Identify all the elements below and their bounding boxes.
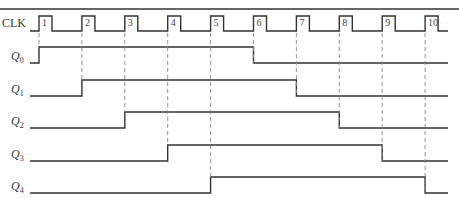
q2-waveform <box>30 112 448 128</box>
q0-waveform <box>30 47 448 63</box>
pulse-number-10: 10 <box>428 17 438 28</box>
pulse-number-7: 7 <box>299 17 304 28</box>
clk-label: CLK <box>2 16 26 31</box>
q3-label: Q3 <box>11 147 24 163</box>
q1-label: Q1 <box>11 82 24 98</box>
q4-waveform <box>30 177 448 193</box>
pulse-number-8: 8 <box>342 17 347 28</box>
pulse-number-5: 5 <box>214 17 219 28</box>
q0-label: Q0 <box>11 49 24 65</box>
q4-label: Q4 <box>11 179 24 195</box>
q1-waveform <box>30 80 448 96</box>
pulse-number-3: 3 <box>128 17 133 28</box>
timing-diagram: CLK 12345678910Q0Q1Q2Q3Q4 <box>0 0 459 198</box>
q2-label: Q2 <box>11 114 24 130</box>
waveform-canvas <box>0 0 459 198</box>
pulse-number-9: 9 <box>385 17 390 28</box>
pulse-number-6: 6 <box>257 17 262 28</box>
pulse-number-2: 2 <box>85 17 90 28</box>
pulse-number-1: 1 <box>42 17 47 28</box>
pulse-number-4: 4 <box>171 17 176 28</box>
q3-waveform <box>30 145 448 161</box>
